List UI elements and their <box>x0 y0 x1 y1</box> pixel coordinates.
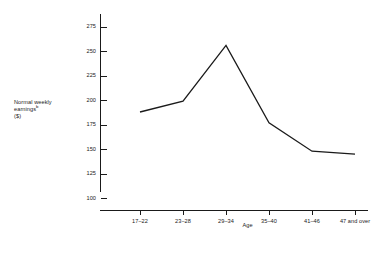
y-axis-tick-label: 100 <box>86 195 96 202</box>
x-axis-title: Age <box>242 222 252 229</box>
line-chart-figure: Normal weekly earningsb ($) 100125150175… <box>0 0 391 259</box>
y-axis-tick-label: 225 <box>86 72 96 79</box>
series-polyline <box>140 45 355 154</box>
y-axis-tick-label: 275 <box>86 23 96 30</box>
y-axis-tick-label: 125 <box>86 170 96 177</box>
x-axis-tick-mark <box>183 210 184 215</box>
x-axis-tick-label: 23–28 <box>175 218 191 225</box>
y-axis-tick-label: 200 <box>86 97 96 104</box>
x-axis-tick-mark <box>226 210 227 215</box>
y-axis-title: Normal weekly earningsb ($) <box>14 99 70 121</box>
y-axis-tick-label: 175 <box>86 121 96 128</box>
x-axis-tick-mark <box>355 210 356 215</box>
data-series-line <box>100 14 368 210</box>
y-axis-title-line-3: ($) <box>14 113 70 120</box>
x-axis-tick-mark <box>140 210 141 215</box>
x-axis-tick-label: 41–46 <box>304 218 320 225</box>
y-axis-tick-label: 250 <box>86 48 96 55</box>
y-axis-title-line-2: earningsb <box>14 106 70 113</box>
x-axis-tick-label: 47 and over <box>340 218 370 225</box>
x-axis-tick-label: 29–34 <box>218 218 234 225</box>
y-axis-tick-label: 150 <box>86 146 96 153</box>
plot-area: 100125150175200225250275 17–2223–2829–34… <box>100 14 368 210</box>
y-axis-title-footnote-marker: b <box>36 104 38 109</box>
x-axis-tick-label: 35–40 <box>261 218 277 225</box>
x-axis-tick-label: 17–22 <box>132 218 148 225</box>
x-axis-tick-mark <box>269 210 270 215</box>
x-axis-tick-mark <box>312 210 313 215</box>
